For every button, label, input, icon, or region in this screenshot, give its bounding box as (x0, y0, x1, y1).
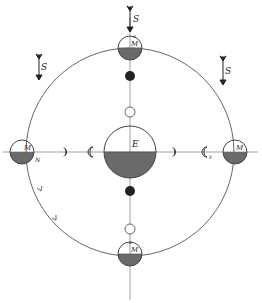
moon-right-label: M (235, 144, 244, 152)
moon-left-label: M (23, 144, 32, 152)
moon-right: M (223, 140, 247, 164)
sun-arrow-icon-right: S (220, 56, 231, 85)
orbit-diagram: E y M a M N M M a (0, 0, 262, 303)
moon-bottom-sublabel: a (129, 239, 132, 245)
earth-label: E (131, 139, 139, 149)
moon-bottom-label: M (130, 246, 139, 254)
sun-arrow-icon-left: S (36, 54, 47, 80)
moon-top-label: M (130, 40, 139, 48)
full-moon-circle-bottom (125, 224, 135, 234)
crescent-icon-right-outer: y (202, 147, 212, 160)
new-moon-dot-bottom (125, 186, 135, 196)
sun-arrow-icon-top: S (127, 6, 139, 32)
moon-left-sublabel: N (34, 156, 41, 163)
moon-top-sublabel: a (133, 33, 136, 39)
full-moon-circle-top (125, 107, 135, 117)
new-moon-dot-top (125, 71, 135, 81)
sun-label-right: S (225, 66, 231, 76)
crescent-sublabel: y (208, 153, 212, 160)
sun-label-top: S (133, 14, 139, 24)
sun-label-left: S (41, 62, 47, 72)
